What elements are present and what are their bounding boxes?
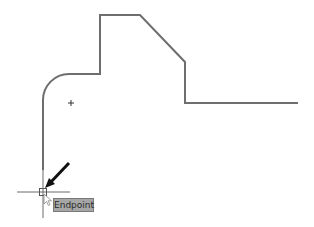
pointer-cursor-icon bbox=[44, 194, 52, 206]
arc-center-marker bbox=[68, 100, 74, 106]
profile-polyline[interactable] bbox=[43, 15, 298, 170]
drawing-canvas[interactable] bbox=[0, 0, 314, 227]
callout-arrow-icon bbox=[45, 163, 69, 188]
snap-tooltip: Endpoint bbox=[53, 198, 94, 212]
